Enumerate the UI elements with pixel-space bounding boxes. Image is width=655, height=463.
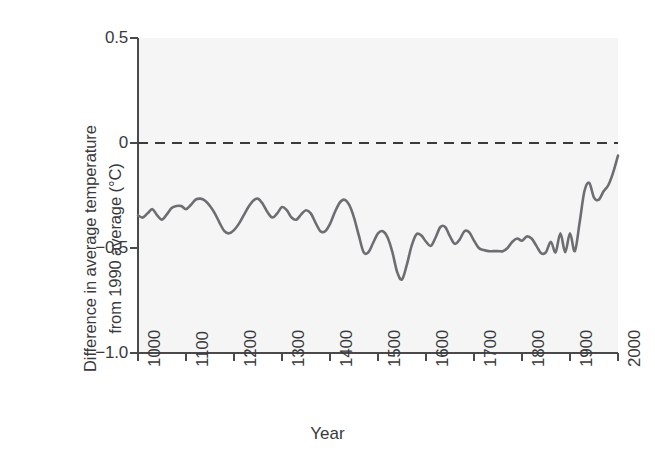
x-tick-label-0: 1000 [145, 330, 165, 367]
x-tick-label-7: 1700 [481, 330, 501, 367]
x-tick-label-6: 1600 [433, 330, 453, 367]
x-tick-label-4: 1400 [337, 330, 357, 367]
x-tick-label-1: 1100 [193, 331, 213, 367]
x-tick-label-9: 1900 [577, 330, 597, 367]
x-tick-label-5: 1500 [385, 330, 405, 367]
x-tick-label-2: 1200 [241, 330, 261, 367]
x-tick-label-8: 1800 [529, 330, 549, 367]
x-tick-label-10: 2000 [625, 330, 645, 367]
x-axis-tick-labels: 1000110012001300140015001600170018001900… [0, 0, 655, 463]
x-tick-label-3: 1300 [289, 330, 309, 367]
x-axis-title: Year [0, 424, 655, 444]
chart-figure: Difference in average temperature from 1… [0, 0, 655, 463]
